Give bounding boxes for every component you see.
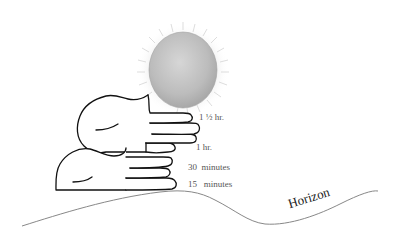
diagram-canvas: 1 ½ hr. 1 hr. 30 minutes 15 minutes Hori… xyxy=(0,0,393,247)
label-fifteen-minutes: 15 minutes xyxy=(188,180,232,189)
sun-icon xyxy=(137,22,229,116)
label-one-hour: 1 hr. xyxy=(196,143,212,152)
label-thirty-minutes: 30 minutes xyxy=(188,163,230,172)
lower-hand-icon xyxy=(56,148,176,190)
diagram-art xyxy=(0,0,393,247)
label-one-and-half-hour: 1 ½ hr. xyxy=(199,113,224,122)
